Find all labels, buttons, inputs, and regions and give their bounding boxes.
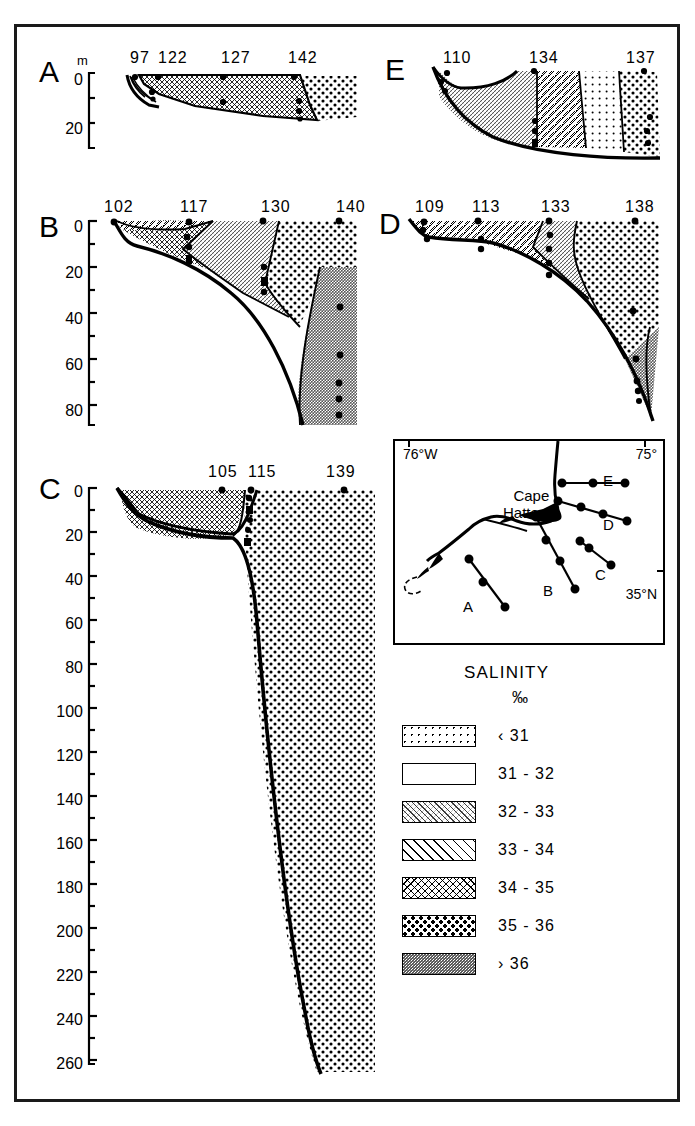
transect-line-a: [466, 556, 509, 611]
legend-label-gt-36: › 36: [498, 955, 530, 973]
legend-swatch-33-34: [402, 839, 476, 861]
panel-section-d: D 109 113 133 138: [367, 177, 683, 442]
panel-a-zone-34-35: [139, 75, 317, 120]
legend-label-33-34: 33 - 34: [498, 841, 555, 859]
legend-label-lt-31: ‹ 31: [498, 727, 530, 745]
legend-swatch-gt-36: [402, 953, 476, 975]
panel-section-a: A m 0 20 97 122 127 142: [17, 27, 367, 177]
panel-section-e: E 110 134 137: [367, 27, 683, 177]
panel-a-plot: [17, 27, 367, 177]
transect-line-e: [559, 480, 629, 487]
figure-frame: A m 0 20 97 122 127 142: [14, 24, 680, 1102]
panel-e-zone-35-36: [619, 71, 660, 157]
map-inset: 76°W 75° 35°N Cape Hatteras A B C D E: [393, 439, 665, 645]
panel-e-plot: [367, 27, 683, 177]
legend-swatch-32-33: [402, 801, 476, 823]
legend-unit: ‰: [512, 689, 528, 707]
map-graphic: [395, 441, 663, 643]
legend-swatch-31-32: [402, 763, 476, 785]
salinity-legend: SALINITY ‰ ‹ 31 31 - 32 32 - 33 33 - 34 …: [402, 663, 662, 993]
legend-title: SALINITY: [464, 663, 549, 683]
panel-a-axis: [89, 73, 95, 148]
legend-label-31-32: 31 - 32: [498, 765, 555, 783]
legend-swatch-34-35: [402, 877, 476, 899]
panel-c-plot: [17, 442, 417, 1102]
transect-line-d: [555, 498, 631, 525]
legend-swatch-35-36: [402, 915, 476, 937]
panel-d-plot: [367, 177, 683, 442]
panel-b-axis: [89, 221, 97, 425]
panel-section-c: C 0 20 40 60 80 100 120 140 160 180 200 …: [17, 442, 417, 1102]
legend-label-32-33: 32 - 33: [498, 803, 555, 821]
transect-line-c: [577, 538, 615, 569]
transect-line-b: [533, 514, 579, 593]
legend-swatch-lt-31: [402, 725, 476, 747]
panel-section-b: B 0 20 40 60 80 102 117 130 140: [17, 177, 367, 442]
map-graticule-ticks: [409, 441, 663, 571]
panel-b-plot: [17, 177, 367, 442]
panel-c-axis: [89, 488, 97, 1064]
legend-label-35-36: 35 - 36: [498, 917, 555, 935]
panel-c-zone-35-36: [244, 490, 375, 1072]
panel-e-zone-33-34: [537, 71, 586, 148]
legend-label-34-35: 34 - 35: [498, 879, 555, 897]
